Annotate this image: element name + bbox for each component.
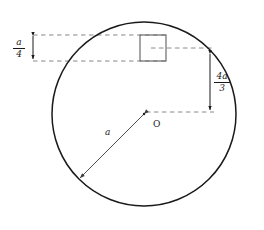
geometry-figure: a 4 4a 3 a O (0, 0, 264, 230)
radius-arrow (80, 114, 144, 178)
center-point-label: O (153, 120, 160, 129)
figure-canvas (0, 0, 264, 230)
dimension-denominator-4a-over-3: 3 (214, 83, 230, 93)
dimension-numerator-a-over-4: a (13, 38, 25, 48)
center-point (143, 113, 145, 115)
dimension-label-a-over-4: a 4 (13, 38, 25, 60)
radius-label: a (105, 128, 110, 137)
dimension-denominator-a-over-4: 4 (13, 49, 25, 59)
dimension-label-4a-over-3: 4a 3 (214, 72, 230, 94)
dimension-numerator-4a-over-3: 4a (214, 72, 230, 82)
